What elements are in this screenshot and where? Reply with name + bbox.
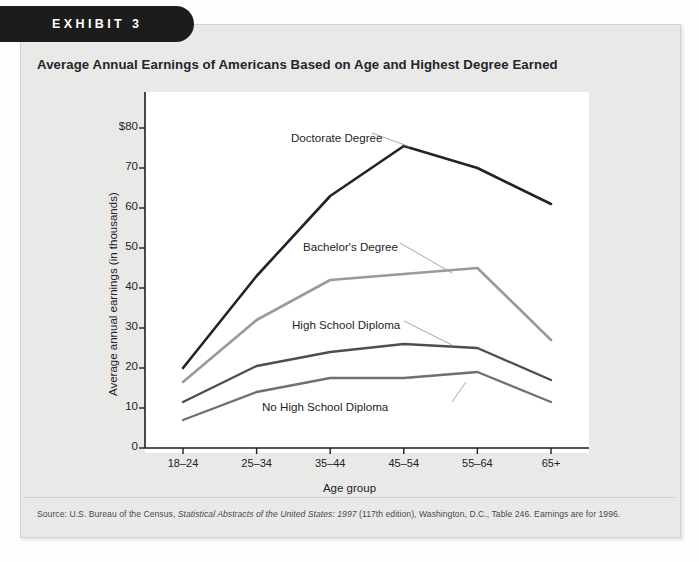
source-publication-title: Statistical Abstracts of the United Stat… xyxy=(178,509,357,519)
y-tick-label: 70 xyxy=(96,160,138,172)
source-divider xyxy=(24,497,675,498)
y-tick-label: 10 xyxy=(96,400,138,412)
exhibit-tab: EXHIBIT 3 xyxy=(0,6,194,42)
y-axis-title: Average annual earnings (in thousands) xyxy=(107,192,119,396)
x-tick-label: 45–54 xyxy=(364,457,444,469)
y-tick-label: $80 xyxy=(96,120,138,132)
source-prefix: Source: U.S. Bureau of the Census, xyxy=(37,509,178,519)
x-tick-label: 65+ xyxy=(511,457,591,469)
series-label-1: Bachelor's Degree xyxy=(303,240,398,253)
x-tick-label: 35–44 xyxy=(290,457,370,469)
series-line-2 xyxy=(183,344,551,402)
x-tick-label: 55–64 xyxy=(437,457,517,469)
series-label-3: No High School Diploma xyxy=(262,400,388,413)
source-note: Source: U.S. Bureau of the Census, Stati… xyxy=(37,509,620,519)
x-tick-label: 18–24 xyxy=(143,457,223,469)
exhibit-tab-label: EXHIBIT 3 xyxy=(52,17,142,31)
series-label-2: High School Diploma xyxy=(292,318,400,331)
y-tick-label: 0 xyxy=(96,440,138,452)
series-label-0: Doctorate Degree xyxy=(291,131,383,144)
exhibit-page: EXHIBIT 3 Average Annual Earnings of Ame… xyxy=(0,0,699,562)
x-axis-title: Age group xyxy=(0,482,699,494)
source-suffix: (117th edition), Washington, D.C., Table… xyxy=(357,509,621,519)
x-tick-label: 25–34 xyxy=(217,457,297,469)
